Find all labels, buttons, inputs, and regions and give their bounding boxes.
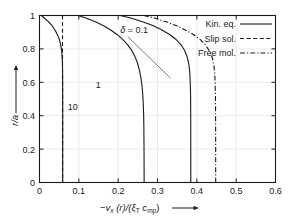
x-axis-tick-label: 0.6: [269, 186, 282, 196]
y-axis-tick-label: 0.4: [22, 111, 35, 121]
annotation-leader-line: [128, 37, 170, 78]
x-axis-tick-label: 0.3: [151, 186, 164, 196]
legend-label: Slip sol.: [204, 34, 236, 44]
x-axis-arrow-head: [194, 206, 199, 210]
legend-label: Kin. eq.: [205, 19, 236, 29]
x-axis-tick-label: 0: [37, 186, 42, 196]
legend-label: Free mol.: [198, 48, 236, 58]
x-axis-tick-label: 0.1: [73, 186, 86, 196]
data-curve: [120, 16, 191, 183]
x-axis-tick-label: 0.2: [112, 186, 125, 196]
curve-annotation-label: 1: [96, 80, 101, 90]
x-axis-tick-label: 0.4: [191, 186, 204, 196]
scientific-line-chart: 00.10.20.30.40.50.600.20.40.60.81δ = 0.1…: [0, 0, 288, 224]
figure-container: 00.10.20.30.40.50.600.20.40.60.81δ = 0.1…: [0, 0, 288, 224]
data-curve: [41, 16, 62, 183]
y-axis-tick-label: 1: [30, 11, 35, 21]
x-axis-title: −vx (r)/(ξT cmp): [100, 202, 159, 215]
y-axis-tick-label: 0: [30, 178, 35, 188]
curve-annotation-label: 10: [68, 102, 78, 112]
y-axis-title: r/a: [9, 115, 20, 126]
curve-annotation-label: δ = 0.1: [120, 25, 148, 35]
y-axis-arrow-head: [14, 65, 18, 70]
y-axis-tick-label: 0.6: [22, 78, 35, 88]
data-curve: [78, 16, 144, 183]
y-axis-tick-label: 0.2: [22, 145, 35, 155]
x-axis-tick-label: 0.5: [230, 186, 243, 196]
y-axis-tick-label: 0.8: [22, 44, 35, 54]
